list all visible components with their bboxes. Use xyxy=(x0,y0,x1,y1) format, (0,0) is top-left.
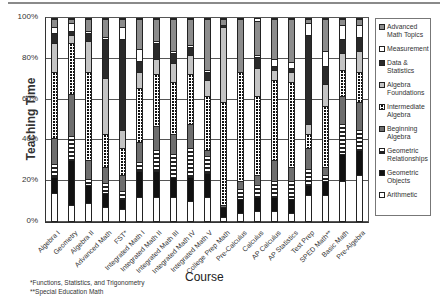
legend-label: Data &Statistics xyxy=(387,59,414,75)
bar-ap-statistics xyxy=(288,18,295,222)
segment-geoobj xyxy=(154,171,159,197)
legend-item-meas: Measurement xyxy=(379,45,427,53)
segment-adv xyxy=(188,19,193,45)
segment-georel xyxy=(255,185,260,197)
segment-intalg xyxy=(205,96,210,151)
segment-georel xyxy=(137,162,142,170)
legend-swatch-icon xyxy=(379,170,385,176)
segment-geoobj xyxy=(323,181,328,195)
segment-algfound xyxy=(323,84,328,106)
segment-algfound xyxy=(171,63,176,81)
segment-begalg xyxy=(52,138,57,164)
segment-georel xyxy=(103,183,108,193)
segment-meas xyxy=(137,49,142,61)
segment-georel xyxy=(272,181,277,197)
segment-begalg xyxy=(86,160,91,178)
segment-datastat xyxy=(255,57,260,67)
segment-geoobj xyxy=(52,177,57,193)
segment-arith xyxy=(154,197,159,221)
segment-begalg xyxy=(103,167,108,183)
segment-intalg xyxy=(357,72,362,102)
segment-algfound xyxy=(103,78,108,135)
segment-adv xyxy=(86,19,91,31)
segment-geoobj xyxy=(221,207,226,217)
segment-georel xyxy=(171,154,176,176)
segment-arith xyxy=(272,211,277,221)
segment-geoobj xyxy=(289,199,294,213)
segment-algfound xyxy=(205,80,210,96)
bar-fst- xyxy=(119,18,126,222)
legend-label: Arithmetic xyxy=(387,191,417,199)
segment-georel xyxy=(238,189,243,199)
segment-adv xyxy=(289,19,294,61)
plot-area xyxy=(45,17,369,223)
segment-algfound xyxy=(221,27,226,102)
segment-adv xyxy=(103,19,108,37)
segment-algfound xyxy=(188,55,193,73)
segment-begalg xyxy=(357,102,362,130)
legend-swatch-icon xyxy=(379,148,385,154)
segment-geoobj xyxy=(171,177,176,197)
segment-adv xyxy=(52,19,57,27)
segment-geoobj xyxy=(120,199,125,209)
segment-datastat xyxy=(137,61,142,71)
legend-swatch-icon xyxy=(379,24,385,30)
y-tick-label: 0% xyxy=(8,216,38,225)
segment-adv xyxy=(255,21,260,55)
segment-begalg xyxy=(154,126,159,150)
segment-datastat xyxy=(306,35,311,124)
legend-item-intalg: IntermediateAlgebra xyxy=(379,103,427,119)
segment-begalg xyxy=(255,175,260,185)
legend-item-georel: GeometricRelationships xyxy=(379,147,427,163)
segment-arith xyxy=(69,205,74,221)
legend-item-arith: Arithmetic xyxy=(379,191,427,199)
segment-adv xyxy=(238,19,243,72)
y-tick-label: 100% xyxy=(8,12,38,21)
segment-arith xyxy=(188,201,193,221)
legend-item-datastat: Data &Statistics xyxy=(379,59,427,75)
bar-sped-math- xyxy=(322,18,329,222)
bar-pre-calculus xyxy=(237,18,244,222)
legend-swatch-icon xyxy=(379,192,385,198)
legend-item-begalg: BeginningAlgebra xyxy=(379,125,427,141)
legend-item-geoobj: GeometricObjects xyxy=(379,169,427,185)
segment-geoobj xyxy=(357,150,362,174)
segment-datastat xyxy=(86,33,91,41)
footnote-fst: *Functions, Statistics, and Trigonometry xyxy=(30,279,145,286)
segment-geoobj xyxy=(86,185,91,203)
segment-algfound xyxy=(289,72,294,82)
segment-datastat xyxy=(154,43,159,59)
segment-datastat xyxy=(120,39,125,130)
segment-algfound xyxy=(340,53,345,69)
segment-datastat xyxy=(171,53,176,63)
bar-calculus xyxy=(254,18,261,222)
bar-integrated-math-i xyxy=(136,18,143,222)
segment-meas xyxy=(120,27,125,39)
segment-intalg xyxy=(103,134,108,166)
legend-swatch-icon xyxy=(379,46,385,52)
segment-intalg xyxy=(323,106,328,167)
segment-meas xyxy=(306,23,311,35)
segment-meas xyxy=(357,25,362,37)
segment-algfound xyxy=(255,68,260,96)
segment-begalg xyxy=(137,142,142,162)
legend: AdvancedMath TopicsMeasurementData &Stat… xyxy=(375,18,431,216)
segment-begalg xyxy=(188,124,193,148)
segment-intalg xyxy=(69,43,74,94)
segment-geoobj xyxy=(137,171,142,197)
segment-geoobj xyxy=(238,199,243,213)
segment-georel xyxy=(205,156,210,172)
segment-begalg xyxy=(171,134,176,154)
segment-adv xyxy=(171,19,176,51)
segment-arith xyxy=(86,203,91,221)
segment-algfound xyxy=(52,43,57,71)
segment-intalg xyxy=(52,72,57,139)
segment-datastat xyxy=(103,39,108,77)
segment-meas xyxy=(340,25,345,39)
segment-arith xyxy=(357,175,362,221)
bar-test-prep xyxy=(305,18,312,222)
segment-geoobj xyxy=(205,173,210,197)
segment-adv xyxy=(205,19,210,70)
bar-ap-calculus xyxy=(271,18,278,222)
legend-swatch-icon xyxy=(379,104,385,110)
